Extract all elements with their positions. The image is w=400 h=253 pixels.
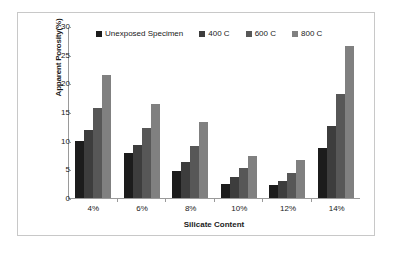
bar-groups [69,27,360,198]
bar-8pct-series-3[interactable] [190,146,199,198]
bar-10pct-series-2[interactable] [230,177,239,198]
bar-4pct-series-2[interactable] [84,130,93,198]
y-tick-10: 10 [34,137,74,147]
bar-8pct-series-4[interactable] [199,122,208,198]
bar-group-10pct [215,27,264,198]
bar-6pct-series-1[interactable] [124,153,133,198]
bar-12pct-series-2[interactable] [278,181,287,198]
bar-group-14pct [312,27,361,198]
y-tick-0: 0 [34,194,74,204]
x-tick-mark [311,198,312,202]
plot-area: 302520151050 [68,27,360,199]
bar-group-6pct [118,27,167,198]
bar-group-8pct [166,27,215,198]
x-axis-title: Silicate Content [68,220,360,229]
bar-12pct-series-3[interactable] [287,173,296,198]
bar-12pct-series-1[interactable] [269,185,278,198]
x-tick-label-8pct: 8% [166,204,215,213]
bar-4pct-series-3[interactable] [93,108,102,198]
y-tick-20: 20 [34,79,74,89]
x-axis-tick-labels: 4%6%8%10%12%14% [69,204,361,213]
bar-group-12pct [263,27,312,198]
bar-4pct-series-4[interactable] [102,75,111,198]
bar-10pct-series-1[interactable] [221,184,230,198]
bar-group-4pct [69,27,118,198]
y-tick-25: 25 [34,51,74,61]
bar-14pct-series-4[interactable] [345,46,354,199]
x-tick-mark [117,198,118,202]
chart-figure: Apparent Porosity(%) Unexposed Specimen4… [0,0,400,253]
chart-frame: Apparent Porosity(%) Unexposed Specimen4… [17,12,375,236]
y-tick-5: 5 [34,165,74,175]
bar-14pct-series-3[interactable] [336,94,345,198]
x-tick-mark [165,198,166,202]
x-tick-mark [214,198,215,202]
bar-10pct-series-3[interactable] [239,168,248,198]
bar-12pct-series-4[interactable] [296,160,305,198]
bar-10pct-series-4[interactable] [248,156,257,198]
x-tick-label-4pct: 4% [69,204,118,213]
y-tick-30: 30 [34,22,74,32]
x-tick-mark [262,198,263,202]
bar-8pct-series-1[interactable] [172,171,181,198]
y-tick-15: 15 [34,108,74,118]
x-tick-label-12pct: 12% [264,204,313,213]
bar-4pct-series-1[interactable] [75,141,84,198]
bar-14pct-series-2[interactable] [327,126,336,198]
bar-8pct-series-2[interactable] [181,162,190,198]
bar-6pct-series-2[interactable] [133,145,142,198]
bar-6pct-series-3[interactable] [142,128,151,198]
bar-6pct-series-4[interactable] [151,104,160,198]
y-tick-mark [68,199,71,200]
bar-14pct-series-1[interactable] [318,148,327,198]
x-tick-label-14pct: 14% [312,204,361,213]
x-tick-label-10pct: 10% [215,204,264,213]
x-tick-label-6pct: 6% [118,204,167,213]
